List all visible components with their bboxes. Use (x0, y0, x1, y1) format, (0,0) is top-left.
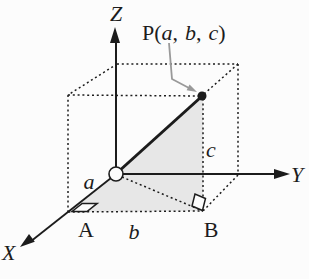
box-edge-bottom-right-slant (203, 175, 238, 211)
point-p-label: P(a,b,c) (142, 20, 226, 45)
corner-A-label: A (78, 217, 94, 242)
labels: Z Y X P(a,b,c) A B a b c (1, 1, 306, 265)
x-axis-arrowhead-icon (20, 234, 35, 247)
p-label-a: a (162, 20, 173, 45)
p-label-leader (169, 43, 197, 92)
corner-B-label: B (204, 217, 219, 242)
y-axis-arrowhead-icon (274, 169, 290, 179)
point-p-dot (198, 92, 207, 101)
z-axis-label: Z (110, 1, 123, 26)
leader-arrowhead-wrap (187, 85, 197, 92)
box-edge-front-top (68, 95, 200, 96)
p-label-c: c (209, 20, 219, 45)
p-label-suffix: ) (218, 20, 225, 45)
edge-b-label: b (129, 219, 140, 244)
p-label-sep2: , (196, 20, 202, 45)
edge-c-label: c (206, 137, 216, 162)
p-label-b: b (185, 20, 196, 45)
box-edge-top-left-slant (68, 64, 117, 95)
p-label-sep1: , (173, 20, 179, 45)
y-axis-label: Y (291, 162, 306, 187)
origin-circle (109, 167, 123, 181)
p-label-prefix: P( (142, 20, 162, 45)
box-edge-top-right-slant (204, 64, 238, 94)
x-axis-label: X (1, 240, 17, 265)
edge-a-label: a (84, 169, 95, 194)
leader-line (169, 43, 189, 88)
coordinate-diagram: Z Y X P(a,b,c) A B a b c (0, 0, 309, 279)
solid-lines (30, 40, 277, 242)
z-axis-arrowhead-icon (110, 27, 120, 43)
figure-canvas: Z Y X P(a,b,c) A B a b c (0, 0, 309, 279)
leader-arrowhead-icon (187, 85, 197, 92)
